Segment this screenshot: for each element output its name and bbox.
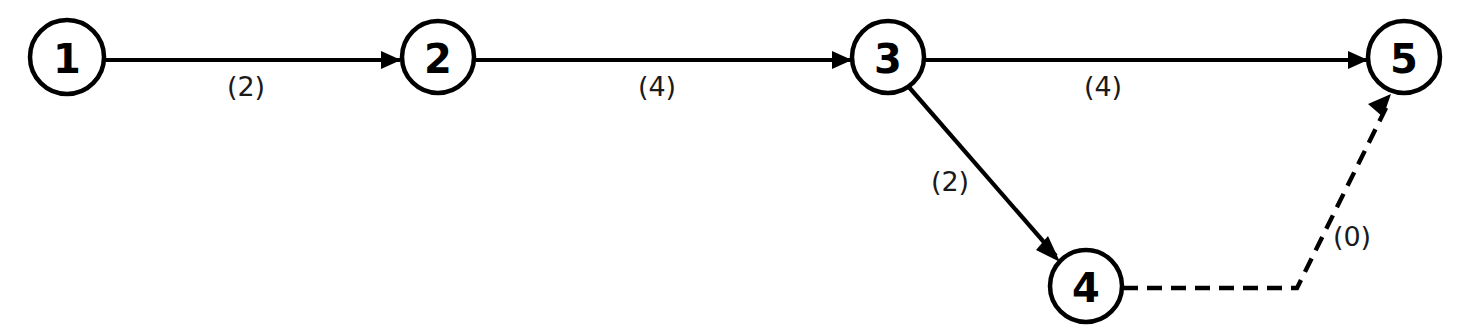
- edge-3-to-4[interactable]: (2): [908, 86, 1060, 262]
- edge-3-to-5-label: (4): [1084, 71, 1122, 102]
- node-2-label: 2: [424, 36, 452, 82]
- edge-4-to-5-arrowhead: [1368, 94, 1391, 117]
- edge-1-to-2[interactable]: (2): [104, 51, 401, 102]
- node-4[interactable]: 4: [1050, 250, 1122, 322]
- network-diagram: (2) (4) (4) (2) (0) 1: [0, 0, 1473, 335]
- edge-4-to-5-label: (0): [1333, 221, 1371, 252]
- diagram-canvas: (2) (4) (4) (2) (0) 1: [0, 0, 1473, 335]
- edge-2-to-3-arrowhead: [832, 51, 852, 69]
- node-2[interactable]: 2: [402, 21, 474, 93]
- edge-3-to-5[interactable]: (4): [924, 51, 1368, 102]
- node-3-label: 3: [874, 36, 902, 82]
- node-4-label: 4: [1072, 265, 1100, 311]
- edge-4-to-5-line: [1123, 106, 1387, 288]
- edge-1-to-2-arrowhead: [381, 51, 401, 69]
- node-5-label: 5: [1390, 36, 1418, 82]
- edge-3-to-4-label: (2): [931, 166, 969, 197]
- edge-2-to-3-label: (4): [638, 71, 676, 102]
- node-1-label: 1: [53, 36, 81, 82]
- edge-4-to-5-dashed[interactable]: (0): [1123, 94, 1391, 288]
- node-5[interactable]: 5: [1368, 21, 1440, 93]
- node-3[interactable]: 3: [852, 21, 924, 93]
- edge-1-to-2-label: (2): [227, 71, 265, 102]
- node-1[interactable]: 1: [30, 20, 104, 94]
- edge-2-to-3[interactable]: (4): [474, 51, 852, 102]
- edge-3-to-5-arrowhead: [1348, 51, 1368, 69]
